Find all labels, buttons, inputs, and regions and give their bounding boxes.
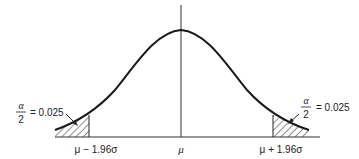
tick-label-right: μ + 1.96σ: [260, 144, 304, 155]
right-alpha-numerator: α: [303, 95, 309, 106]
bell-curve: [55, 30, 309, 130]
tick-label-center: μ: [177, 143, 184, 155]
normal-distribution-chart: μ − 1.96σ μ μ + 1.96σ α 2 = 0.025 α 2 = …: [0, 0, 359, 159]
left-alpha-denominator: 2: [18, 114, 24, 125]
left-alpha-value: = 0.025: [30, 107, 64, 118]
right-alpha-value: = 0.025: [316, 102, 350, 113]
right-alpha-annotation: α 2 = 0.025: [288, 95, 350, 124]
right-alpha-denominator: 2: [303, 109, 309, 120]
tick-label-left: μ − 1.96σ: [75, 144, 119, 155]
left-alpha-numerator: α: [18, 100, 24, 111]
left-alpha-annotation: α 2 = 0.025: [16, 100, 78, 126]
